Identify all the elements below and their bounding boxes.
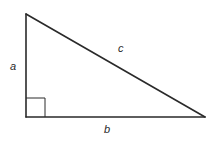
right-triangle-diagram: a b c	[0, 0, 220, 142]
label-c: c	[118, 42, 124, 54]
label-a: a	[10, 60, 16, 72]
label-b: b	[104, 123, 110, 135]
right-angle-marker	[26, 98, 45, 117]
side-c-hypotenuse-line	[26, 14, 205, 117]
